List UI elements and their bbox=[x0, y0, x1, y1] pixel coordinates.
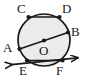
point-b-dot bbox=[66, 30, 70, 34]
circle-geometry-figure: C D A B O E F bbox=[0, 0, 88, 82]
point-label-o: O bbox=[39, 44, 48, 57]
point-label-f: F bbox=[56, 64, 63, 77]
point-label-b: B bbox=[71, 25, 80, 38]
point-label-c: C bbox=[17, 2, 26, 15]
point-label-e: E bbox=[19, 64, 27, 77]
point-label-a: A bbox=[3, 41, 12, 54]
point-e-dot bbox=[25, 58, 29, 62]
point-label-d: D bbox=[62, 2, 71, 15]
point-c-dot bbox=[26, 15, 30, 19]
point-d-dot bbox=[57, 15, 61, 19]
geometry-drawing bbox=[0, 0, 88, 82]
point-f-dot bbox=[60, 58, 64, 62]
point-a-dot bbox=[17, 47, 21, 51]
point-o-dot bbox=[42, 38, 46, 42]
